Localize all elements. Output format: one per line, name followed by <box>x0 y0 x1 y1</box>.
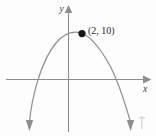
scan-artifact <box>138 116 145 129</box>
y-axis <box>65 5 73 132</box>
y-axis-arrowhead <box>65 5 73 13</box>
curve-left-arrowhead <box>26 120 33 131</box>
x-axis <box>6 76 152 84</box>
curve-right-arrowhead <box>127 120 134 131</box>
vertex-point-marker <box>78 30 85 37</box>
x-axis-label: x <box>142 84 148 94</box>
parabola-curve <box>26 32 134 131</box>
y-axis-label: y <box>59 4 65 14</box>
vertex-point-label: (2, 10) <box>88 25 115 37</box>
parabola-path <box>30 32 131 122</box>
graph-canvas: y x (2, 10) <box>0 0 156 136</box>
x-axis-arrowhead <box>143 76 152 84</box>
parabola-figure: y x (2, 10) <box>0 0 156 136</box>
